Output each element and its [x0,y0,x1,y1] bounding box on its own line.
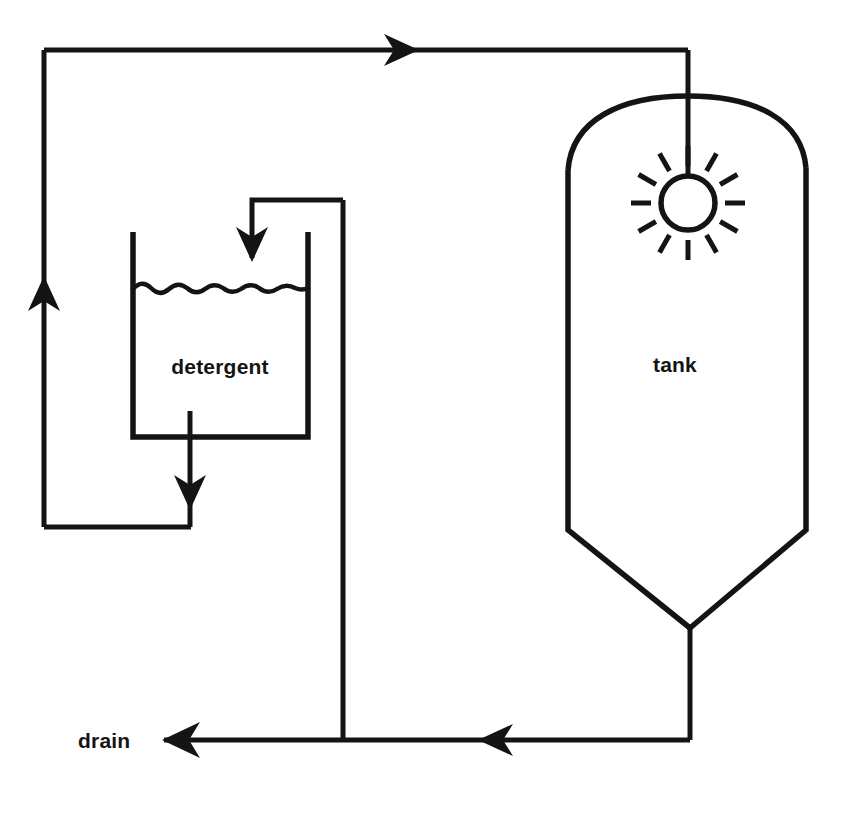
spray-nozzle-circle [661,176,715,230]
detergent-label: detergent [171,355,268,378]
detergent-tank-outline [133,232,308,437]
tank-label: tank [653,353,697,376]
flow-diagram-canvas: tank detergent drain [0,0,841,818]
piping-network [44,50,690,740]
spray-nozzle-rays [631,146,745,260]
diagram-labels: tank detergent drain [78,353,697,752]
flow-arrowheads [28,34,513,758]
drain-label: drain [78,729,130,752]
tank-dome-right [688,96,806,168]
process-flow-diagram: tank detergent drain [0,0,841,818]
tank-dome-left [568,96,688,170]
detergent-tank-vessel [133,232,308,437]
tank-left-wall [568,170,690,628]
detergent-liquid-surface [133,284,308,293]
spray-nozzle-icon [631,146,745,260]
